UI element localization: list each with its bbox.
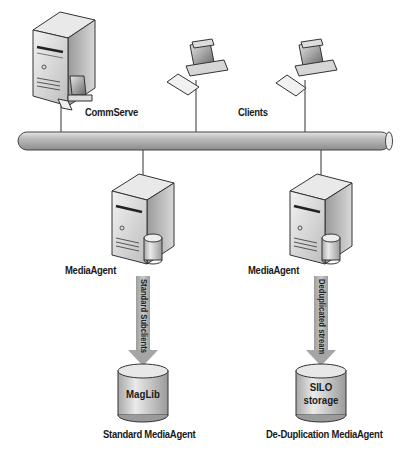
commserve-label: CommServe <box>85 106 138 118</box>
client-workstation-icon <box>167 39 228 95</box>
stream-label: Deduplicated stream <box>317 279 327 354</box>
media-agent-label: MediaAgent <box>248 264 299 276</box>
storage-label: SILO storage <box>299 381 343 407</box>
commserve-server-icon <box>33 12 95 110</box>
storage-label-line: SILO <box>299 381 343 394</box>
connector-lines <box>61 80 321 176</box>
diagram-canvas <box>0 0 404 453</box>
media-agent-server-icon <box>290 174 352 264</box>
storage-label-line: MagLib <box>121 388 165 401</box>
media-agent-server-icon <box>112 174 174 264</box>
stream-label: Standard Subclients <box>139 279 149 353</box>
clients-label: Clients <box>238 106 268 118</box>
network-bus <box>18 132 393 150</box>
media-agent-label: MediaAgent <box>65 264 116 276</box>
client-workstation-icon <box>276 39 337 96</box>
storage-label: MagLib <box>121 388 165 401</box>
caption-standard-media-agent: Standard MediaAgent <box>103 428 195 440</box>
storage-label-line: storage <box>299 394 343 407</box>
caption-dedup-media-agent: De-Duplication MediaAgent <box>266 428 383 440</box>
